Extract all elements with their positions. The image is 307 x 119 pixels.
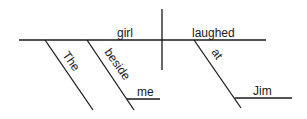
subject-word: girl [117, 26, 133, 40]
sentence-diagram: girl laughed The beside me at Jim [0, 0, 307, 119]
subject-preposition-word: beside [102, 46, 134, 83]
article-word: The [60, 49, 84, 74]
verb-preposition-object-word: Jim [253, 84, 272, 98]
predicate-word: laughed [192, 26, 235, 40]
verb-preposition-word: at [209, 46, 227, 63]
subject-preposition-object-word: me [137, 85, 154, 99]
